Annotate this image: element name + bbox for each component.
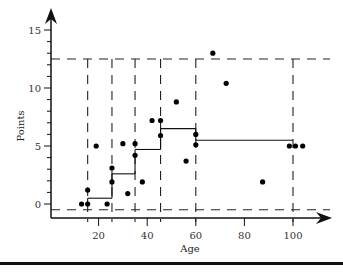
data-point: [85, 201, 90, 206]
data-point: [174, 99, 179, 104]
y-tick-label: 5: [35, 141, 41, 152]
y-axis-title: Points: [15, 110, 26, 141]
data-point: [109, 165, 114, 170]
x-tick-label: 40: [141, 230, 154, 241]
data-point: [287, 143, 292, 148]
bottom-rule: [0, 262, 343, 265]
data-point: [183, 158, 188, 163]
data-point: [120, 141, 125, 146]
data-point: [79, 201, 84, 206]
data-point: [293, 143, 298, 148]
data-point: [132, 153, 137, 158]
data-point: [210, 51, 215, 56]
x-tick-label: 80: [238, 230, 251, 241]
data-point: [158, 118, 163, 123]
data-point: [149, 118, 154, 123]
data-point: [109, 179, 114, 184]
y-axis-ticks: 051015: [28, 25, 51, 210]
x-tick-label: 60: [189, 230, 202, 241]
x-axis-title: Age: [179, 243, 200, 254]
data-point: [132, 141, 137, 146]
x-tick-label: 100: [283, 230, 302, 241]
regression-tree-chart: 051015 20406080100 Age Points: [0, 0, 343, 273]
data-point: [105, 201, 110, 206]
y-tick-label: 10: [28, 83, 41, 94]
y-tick-label: 15: [28, 25, 41, 36]
data-point: [125, 191, 130, 196]
step-function: [88, 129, 293, 203]
data-point: [140, 179, 145, 184]
x-tick-label: 20: [92, 230, 105, 241]
data-point: [85, 187, 90, 192]
data-point: [193, 132, 198, 137]
data-point: [300, 143, 305, 148]
data-point: [193, 142, 198, 147]
y-tick-label: 0: [35, 199, 41, 210]
data-point: [158, 133, 163, 138]
x-axis-ticks: 20406080100: [92, 218, 302, 241]
data-point: [260, 179, 265, 184]
data-point: [94, 143, 99, 148]
data-point: [224, 81, 229, 86]
